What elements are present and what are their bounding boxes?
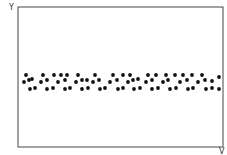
data-point xyxy=(22,80,26,84)
data-point xyxy=(85,78,89,82)
data-point xyxy=(191,86,195,90)
x-axis-label: V xyxy=(219,147,225,155)
data-point xyxy=(190,73,194,77)
data-point xyxy=(200,73,204,77)
data-point xyxy=(166,78,170,82)
data-point xyxy=(186,87,190,91)
data-point xyxy=(97,78,101,82)
data-point xyxy=(80,78,84,82)
data-point xyxy=(181,73,185,77)
data-point xyxy=(173,73,177,77)
data-point xyxy=(138,86,142,90)
data-point xyxy=(68,86,72,90)
data-point xyxy=(116,87,120,91)
data-point xyxy=(144,80,148,84)
data-point xyxy=(65,73,69,77)
data-point xyxy=(128,73,132,77)
data-point xyxy=(121,86,125,90)
data-point xyxy=(30,77,34,81)
data-point xyxy=(136,77,140,81)
data-point xyxy=(217,87,221,91)
data-point xyxy=(150,87,154,91)
data-point xyxy=(86,86,90,90)
data-point xyxy=(115,78,119,82)
data-point xyxy=(63,78,67,82)
data-point xyxy=(93,73,97,77)
data-point xyxy=(39,80,43,84)
data-point xyxy=(103,86,107,90)
data-point xyxy=(76,73,80,77)
data-point xyxy=(111,73,115,77)
plot-frame xyxy=(18,7,223,147)
data-point xyxy=(132,87,136,91)
data-point xyxy=(59,73,63,77)
data-point xyxy=(178,80,182,84)
data-point xyxy=(80,87,84,91)
data-point xyxy=(154,73,158,77)
data-point xyxy=(91,80,95,84)
data-point xyxy=(98,87,102,91)
data-point xyxy=(210,86,214,90)
data-point xyxy=(56,80,60,84)
data-point xyxy=(45,87,49,91)
data-point xyxy=(51,86,55,90)
data-point xyxy=(131,78,135,82)
scatter-chart: Y V xyxy=(0,0,227,155)
data-point xyxy=(24,73,28,77)
data-point xyxy=(150,78,154,82)
y-axis-label: Y xyxy=(8,3,14,12)
data-point xyxy=(164,73,168,77)
data-point xyxy=(146,73,150,77)
data-point xyxy=(121,73,125,77)
data-point xyxy=(174,86,178,90)
data-point xyxy=(185,78,189,82)
data-point xyxy=(204,87,208,91)
data-point xyxy=(52,73,56,77)
data-point xyxy=(196,80,200,84)
data-point xyxy=(126,80,130,84)
data-point xyxy=(63,87,67,91)
data-point xyxy=(210,79,214,83)
data-point xyxy=(45,78,49,82)
data-point xyxy=(28,87,32,91)
data-point xyxy=(161,80,165,84)
data-point xyxy=(41,73,45,77)
data-point xyxy=(203,78,207,82)
data-points xyxy=(22,73,221,91)
data-point xyxy=(108,80,112,84)
data-point xyxy=(33,86,37,90)
data-point xyxy=(168,87,172,91)
data-point xyxy=(156,86,160,90)
data-point xyxy=(217,75,221,79)
data-point xyxy=(74,80,78,84)
